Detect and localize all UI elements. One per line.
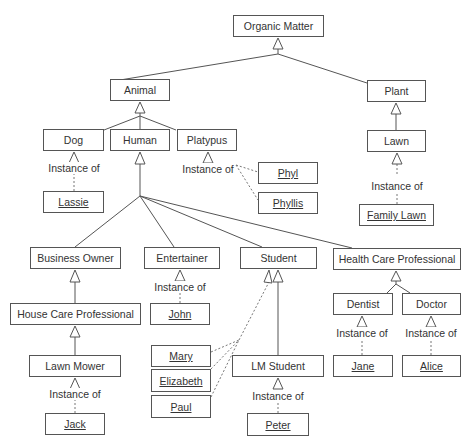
inheritance-arrow-icon <box>273 38 283 49</box>
inheritance-arrow-icon <box>391 271 401 281</box>
instance-label: Mary <box>169 350 192 362</box>
inheritance-arrow-icon <box>70 270 80 282</box>
class-label: Entertainer <box>156 252 207 264</box>
instance-phyllis[interactable]: Phyllis <box>258 192 318 214</box>
class-label: Health Care Professional <box>339 253 456 265</box>
instance-label: Phyl <box>278 167 298 179</box>
inheritance-arrow-icon <box>135 102 145 113</box>
instance-label: Elizabeth <box>159 375 202 387</box>
class-business-owner[interactable]: Business Owner <box>30 247 121 269</box>
class-organic-matter[interactable]: Organic Matter <box>233 15 324 37</box>
class-label: Doctor <box>416 298 447 310</box>
class-platypus[interactable]: Platypus <box>177 129 237 151</box>
instance-label: John <box>169 308 192 320</box>
instance-label: Alice <box>420 360 443 372</box>
inheritance-arrow-icon <box>273 270 283 282</box>
instance-arrow-icon <box>264 270 272 283</box>
instance-phyl[interactable]: Phyl <box>258 162 318 184</box>
instance-lassie[interactable]: Lassie <box>43 191 104 213</box>
instance-of-label-doctor: Instance of <box>404 327 457 339</box>
class-health-care-professional[interactable]: Health Care Professional <box>333 248 461 270</box>
class-label: Dentist <box>347 298 380 310</box>
inheritance-arrow-icon <box>391 103 401 114</box>
instance-jane[interactable]: Jane <box>333 355 393 377</box>
instance-of-label-entertainer: Instance of <box>153 281 206 293</box>
class-doctor[interactable]: Doctor <box>402 293 461 315</box>
class-label: Lawn Mower <box>45 360 105 372</box>
class-label: Dog <box>64 134 83 146</box>
instance-label: Peter <box>265 419 290 431</box>
instance-arrow-icon <box>175 270 185 281</box>
class-house-care-professional[interactable]: House Care Professional <box>10 303 141 325</box>
instance-of-label-dog: Instance of <box>47 162 100 174</box>
class-label: Student <box>260 252 296 264</box>
class-plant[interactable]: Plant <box>367 80 426 102</box>
class-lawn[interactable]: Lawn <box>367 130 426 152</box>
instance-jack[interactable]: Jack <box>45 413 105 435</box>
instance-family-lawn[interactable]: Family Lawn <box>359 204 434 226</box>
instance-of-label-lm-student: Instance of <box>251 390 304 402</box>
instance-arrow-icon <box>426 316 436 327</box>
instance-alice[interactable]: Alice <box>402 355 461 377</box>
inheritance-arrow-icon <box>70 326 80 337</box>
instance-label: Jack <box>64 418 86 430</box>
instance-of-label-dentist: Instance of <box>335 327 388 339</box>
instance-arrow-icon <box>273 378 283 389</box>
instance-label: Phyllis <box>273 197 303 209</box>
class-label: House Care Professional <box>17 308 134 320</box>
class-animal[interactable]: Animal <box>110 79 170 101</box>
class-dog[interactable]: Dog <box>43 129 104 151</box>
instance-paul[interactable]: Paul <box>151 395 211 418</box>
instance-elizabeth[interactable]: Elizabeth <box>151 369 211 392</box>
class-lawn-mower[interactable]: Lawn Mower <box>29 355 121 377</box>
instance-arrow-icon <box>392 153 402 164</box>
instance-mary[interactable]: Mary <box>151 345 211 367</box>
class-label: Organic Matter <box>244 20 313 32</box>
class-entertainer[interactable]: Entertainer <box>144 247 220 269</box>
instance-of-label-platypus: Instance of <box>181 163 234 175</box>
generalization-edge <box>120 54 278 80</box>
uml-class-diagram: Organic Matter Animal Plant Dog Human Pl… <box>0 0 473 447</box>
class-label: Plant <box>385 85 409 97</box>
class-student[interactable]: Student <box>240 247 317 269</box>
class-label: Animal <box>124 84 156 96</box>
instance-label: Jane <box>352 360 375 372</box>
instance-of-label-lawn: Instance of <box>370 180 423 192</box>
class-label: Platypus <box>187 134 227 146</box>
class-human[interactable]: Human <box>110 129 170 151</box>
instance-john[interactable]: John <box>150 303 210 325</box>
instance-arrow-icon <box>357 316 367 327</box>
generalization-edge <box>278 54 367 83</box>
class-dentist[interactable]: Dentist <box>333 293 393 315</box>
instance-label: Paul <box>170 401 191 413</box>
instance-arrow-icon <box>203 152 213 163</box>
class-label: Business Owner <box>37 252 113 264</box>
instance-label: Lassie <box>58 196 88 208</box>
instance-peter[interactable]: Peter <box>247 413 309 436</box>
class-label: Human <box>123 134 157 146</box>
class-lm-student[interactable]: LM Student <box>232 355 324 377</box>
class-label: Lawn <box>384 135 409 147</box>
instance-of-label-lawn-mower: Instance of <box>48 388 101 400</box>
instance-label: Family Lawn <box>367 209 426 221</box>
class-label: LM Student <box>251 360 305 372</box>
inheritance-arrow-icon <box>135 152 145 164</box>
